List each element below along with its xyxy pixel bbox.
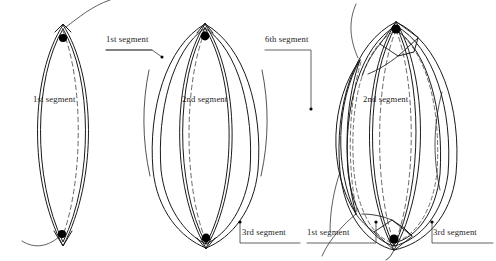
line-art-drawing	[0, 0, 496, 261]
label-1st-segment-panel2: 1st segment	[106, 35, 148, 44]
fold-hint-left	[144, 70, 150, 176]
apex-dot-top-panel1	[59, 34, 67, 42]
p3-segment2-center-seam-dashed	[380, 30, 396, 243]
leader-dot-6th-segment-panel3	[309, 107, 312, 110]
segment-outline-outer	[37, 25, 88, 246]
apex-dot-top-panel2	[201, 32, 210, 41]
segment2-outline-outer	[180, 24, 233, 248]
p3-apex-facet-top-d	[368, 56, 398, 74]
label-6th-segment-panel3: 6th segment	[265, 35, 308, 44]
tail-curve-top	[66, 0, 110, 27]
label-2nd-segment-panel3: 2nd segment	[363, 95, 408, 104]
tail-curve-bottom	[22, 236, 60, 246]
p3-apex-facet-top-c	[362, 44, 380, 76]
segment1-gore-inner	[160, 28, 206, 244]
diagram-canvas: 1st segment 1st segment 2nd segment 3rd …	[0, 0, 496, 261]
label-1st-segment-panel1: 1st segment	[33, 95, 75, 104]
leader-dot-1st-segment-panel2	[161, 56, 164, 59]
leader-1st-segment-panel2	[106, 50, 162, 57]
p3-cross-tail-left	[330, 172, 340, 232]
p3-gore-left-inner	[347, 26, 396, 246]
label-2nd-segment-panel2: 2nd segment	[182, 95, 227, 104]
panel-six-segments	[322, 4, 457, 260]
label-3rd-segment-panel2: 3rd segment	[242, 228, 286, 237]
leader-dot-3rd-segment-panel3	[430, 220, 433, 223]
fold-hint-right	[261, 70, 267, 176]
segment3-gore-inner	[205, 28, 251, 244]
leader-dot-1st-segment-panel3	[374, 220, 377, 223]
leader-6th-segment-panel3	[265, 50, 311, 109]
apex-dot-bottom-panel1	[58, 230, 66, 238]
p3-gore-right-inner2	[394, 30, 441, 243]
p3-tail-top-left	[351, 4, 358, 58]
label-1st-segment-panel3: 1st segment	[307, 228, 349, 237]
apex-dot-bottom-panel3	[389, 234, 398, 243]
p3-apex-facet-bot-d	[362, 214, 392, 220]
apex-dot-bottom-panel2	[202, 234, 211, 243]
apex-dot-top-panel3	[391, 24, 400, 33]
leader-dot-3rd-segment-panel2	[238, 220, 241, 223]
p3-apex-tail-bottom	[386, 250, 394, 260]
label-3rd-segment-panel3: 3rd segment	[433, 228, 477, 237]
